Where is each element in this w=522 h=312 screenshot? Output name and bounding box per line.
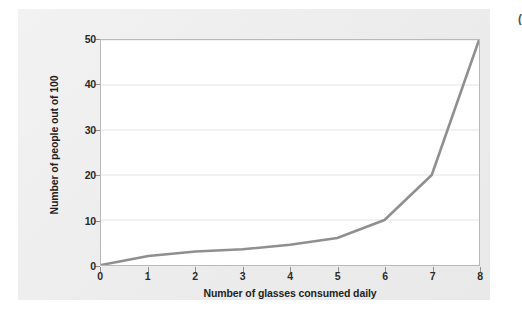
figure-root: 01020304050 012345678 Number of glasses … xyxy=(0,0,522,312)
x-axis-tick-label: 4 xyxy=(278,270,302,282)
x-axis-tick-label: 6 xyxy=(373,270,397,282)
y-axis-title: Number of people out of 100 xyxy=(48,45,60,245)
x-axis-tick-label: 3 xyxy=(231,270,255,282)
x-axis-tick-label: 8 xyxy=(468,270,492,282)
x-axis-tick-labels: 012345678 xyxy=(100,270,480,286)
data-series-line xyxy=(101,40,479,265)
x-axis-tick-label: 7 xyxy=(421,270,445,282)
y-axis-tick-labels: 01020304050 xyxy=(66,39,96,266)
x-axis-tick-label: 1 xyxy=(136,270,160,282)
x-axis-tick-label: 2 xyxy=(183,270,207,282)
y-axis-tick-label: 20 xyxy=(70,170,96,180)
y-axis-tick-label: 40 xyxy=(70,79,96,89)
gridlines xyxy=(101,40,479,220)
y-axis-tick-label: 10 xyxy=(70,216,96,226)
y-axis-tick-label: 30 xyxy=(70,125,96,135)
plot-area xyxy=(100,39,480,266)
x-axis-tick-label: 0 xyxy=(88,270,112,282)
x-axis-tick-label: 5 xyxy=(326,270,350,282)
chart-svg xyxy=(101,40,479,265)
figure-panel: 01020304050 012345678 Number of glasses … xyxy=(18,9,490,300)
cropped-edge-glyph: ( xyxy=(518,14,522,25)
x-axis-title: Number of glasses consumed daily xyxy=(100,287,480,299)
y-axis-tick-label: 50 xyxy=(70,34,96,44)
